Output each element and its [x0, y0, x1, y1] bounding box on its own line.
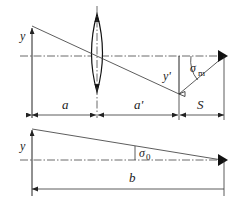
angle-sigma-m-symbol: σ: [190, 61, 197, 75]
bottom-axis-arrowhead: [218, 154, 228, 166]
dim-s-label: S: [197, 97, 204, 112]
dim-a-label: a: [62, 97, 69, 112]
angle-sigma-0-subscript: 0: [146, 152, 151, 162]
bottom-object-height-label: y: [19, 139, 26, 153]
top-diagram: y y' σ m a a' S: [19, 6, 228, 120]
chief-ray: [32, 26, 179, 94]
dim-b-label: b: [129, 170, 136, 185]
lens: [92, 6, 103, 118]
dim-a-prime-label: a': [134, 97, 144, 112]
axis-arrowhead: [218, 50, 228, 62]
image-height-label: y': [162, 69, 171, 83]
angle-sigma-m-subscript: m: [198, 68, 205, 78]
angle-sigma-0-symbol: σ: [139, 146, 146, 160]
object-height-label: y: [19, 29, 26, 43]
bottom-ray: [32, 129, 222, 160]
bottom-diagram: y σ 0 b: [19, 129, 228, 196]
optics-diagram: y y' σ m a a' S: [0, 0, 242, 216]
